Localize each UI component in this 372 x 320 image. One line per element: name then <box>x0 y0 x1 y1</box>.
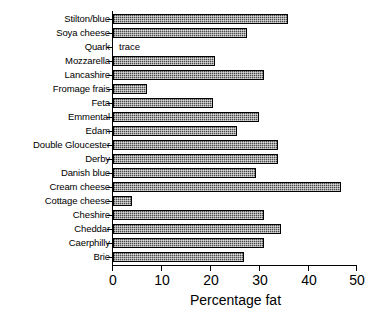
bar-emmental <box>113 112 259 122</box>
chart-row: Lancashire <box>0 69 372 83</box>
chart-row: Quark trace <box>0 41 372 55</box>
category-label: Mozzarella <box>65 55 110 69</box>
category-label: Cheddar <box>74 223 110 237</box>
category-label: Derby <box>85 153 110 167</box>
bar-chart: Stilton/blue Soya cheese Quark trace Moz… <box>0 0 372 320</box>
plot-area: Stilton/blue Soya cheese Quark trace Moz… <box>0 0 372 320</box>
chart-row: Cottage cheese <box>0 195 372 209</box>
x-tick-mark <box>210 265 211 271</box>
category-label: Emmental <box>68 111 110 125</box>
x-tick-mark <box>161 265 162 271</box>
chart-row: Caerphilly <box>0 237 372 251</box>
bar-danish-blue <box>113 168 256 178</box>
chart-row: Brie <box>0 251 372 265</box>
x-axis-line <box>112 265 357 266</box>
chart-row: Cream cheese <box>0 181 372 195</box>
category-label: Lancashire <box>65 69 110 83</box>
x-axis-title: Percentage fat <box>113 292 358 308</box>
bar-edam <box>113 126 237 136</box>
category-label: Cottage cheese <box>45 195 110 209</box>
category-label: Quark <box>85 41 110 55</box>
bar-brie <box>113 252 244 262</box>
chart-row: Cheshire <box>0 209 372 223</box>
bar-feta <box>113 98 213 108</box>
bar-lancashire <box>113 70 264 80</box>
category-label: Danish blue <box>61 167 110 181</box>
chart-row: Danish blue <box>0 167 372 181</box>
x-tick-mark <box>356 265 357 271</box>
category-label: Soya cheese <box>56 27 110 41</box>
chart-row: Edam <box>0 125 372 139</box>
x-tick-mark <box>259 265 260 271</box>
bar-double-gloucester <box>113 140 278 150</box>
bar-caerphilly <box>113 238 264 248</box>
bar-fromage-frais <box>113 84 147 94</box>
chart-row: Double Gloucester <box>0 139 372 153</box>
category-label: Feta <box>91 97 110 111</box>
x-tick-label: 40 <box>289 272 329 288</box>
category-label: Cheshire <box>73 209 110 223</box>
category-label: Brie <box>94 251 111 265</box>
category-label: Fromage frais <box>53 83 110 97</box>
chart-row: Feta <box>0 97 372 111</box>
chart-row: Mozzarella <box>0 55 372 69</box>
chart-row: Soya cheese <box>0 27 372 41</box>
x-tick-label: 20 <box>191 272 231 288</box>
bar-stilton-blue <box>113 14 288 24</box>
category-label: Stilton/blue <box>64 13 110 27</box>
chart-row: Stilton/blue <box>0 13 372 27</box>
bar-mozzarella <box>113 56 215 66</box>
x-tick-mark <box>308 265 309 271</box>
category-label: Cream cheese <box>49 181 110 195</box>
chart-row: Derby <box>0 153 372 167</box>
y-axis-line <box>112 11 113 266</box>
x-tick-label: 10 <box>142 272 182 288</box>
chart-row: Emmental <box>0 111 372 125</box>
chart-row: Fromage frais <box>0 83 372 97</box>
category-label: Double Gloucester <box>33 139 110 153</box>
bar-cheshire <box>113 210 264 220</box>
trace-annotation: trace <box>119 41 140 55</box>
bar-soya-cheese <box>113 28 247 38</box>
x-tick-mark <box>112 265 113 271</box>
x-tick-label: 0 <box>93 272 133 288</box>
category-label: Caerphilly <box>69 237 110 251</box>
x-tick-label: 30 <box>240 272 280 288</box>
bar-cheddar <box>113 224 281 234</box>
bar-cottage-cheese <box>113 196 132 206</box>
chart-row: Cheddar <box>0 223 372 237</box>
x-tick-label: 50 <box>337 272 372 288</box>
bar-derby <box>113 154 278 164</box>
bar-cream-cheese <box>113 182 341 192</box>
category-label: Edam <box>86 125 110 139</box>
